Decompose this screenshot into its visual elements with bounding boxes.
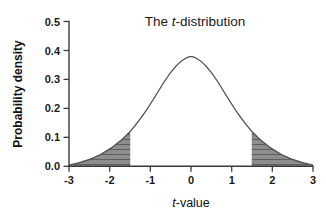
y-tick-label: 0.3: [45, 73, 60, 85]
x-axis-tick-labels: -3 -2 -1 0 1 2 3: [64, 174, 316, 186]
x-axis-title: t-value: [172, 196, 210, 210]
x-axis-title-suffix: -value: [176, 196, 210, 210]
y-tick-label: 0.5: [45, 16, 60, 28]
x-axis-ticks: [69, 166, 313, 172]
x-tick-label: -1: [145, 174, 155, 186]
chart-title-prefix: The: [145, 14, 172, 29]
y-axis-tick-labels: 0.5 0.4 0.3 0.2 0.1 0.0: [45, 16, 61, 173]
density-curve: [69, 57, 313, 165]
y-axis-title: Probability density: [11, 40, 25, 148]
x-tick-label: -3: [64, 174, 74, 186]
x-tick-label: 0: [188, 174, 194, 186]
shaded-region-left-tail: [69, 131, 131, 166]
x-tick-label: 3: [310, 174, 316, 186]
chart-title-suffix: -distribution: [176, 14, 246, 29]
x-tick-label: -2: [105, 174, 115, 186]
y-tick-label: 0.0: [45, 160, 60, 172]
t-distribution-chart: 0.5 0.4 0.3 0.2 0.1 0.0 -3 -2 -1 0 1 2 3…: [0, 0, 326, 217]
chart-canvas: 0.5 0.4 0.3 0.2 0.1 0.0 -3 -2 -1 0 1 2 3…: [0, 0, 326, 217]
y-tick-label: 0.2: [45, 102, 60, 114]
x-tick-label: 1: [229, 174, 235, 186]
y-tick-label: 0.4: [45, 45, 61, 57]
chart-title: The t-distribution: [145, 14, 246, 29]
x-tick-label: 2: [269, 174, 275, 186]
y-tick-label: 0.1: [45, 131, 60, 143]
y-axis-ticks: [64, 22, 70, 167]
shaded-region-right-tail: [252, 131, 314, 166]
